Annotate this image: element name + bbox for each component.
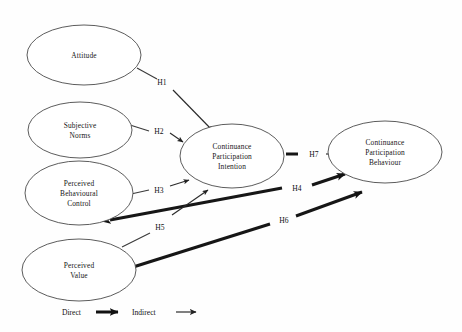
- node-label-pbc-line1: Perceived: [64, 179, 95, 188]
- node-label-pbc-line2: Behavioural: [60, 189, 98, 198]
- hypothesis-label-h7: H7: [309, 150, 318, 159]
- node-label-subjective-norms-line1: Subjective: [64, 121, 97, 130]
- node-label-cpi-line1: Continuance: [212, 142, 252, 151]
- hypothesis-label-h3: H3: [154, 186, 163, 195]
- ellipse-subjective-norms[interactable]: [28, 102, 132, 158]
- legend-indirect-label: Indirect: [132, 308, 157, 317]
- node-perceived-value[interactable]: Perceived Value: [22, 239, 136, 301]
- hypothesis-label-h2: H2: [154, 127, 163, 136]
- hypothesis-label-h6: H6: [279, 216, 288, 225]
- edge-h1: [137, 68, 213, 131]
- legend-direct-label: Direct: [62, 308, 82, 317]
- node-perceived-behavioural-control[interactable]: Perceived Behavioural Control: [25, 161, 133, 225]
- node-label-cpb-line1: Continuance: [365, 138, 405, 147]
- legend: Direct Indirect: [62, 308, 196, 317]
- node-label-attitude: Attitude: [71, 51, 97, 60]
- node-label-cpb-line3: Behaviour: [369, 158, 402, 167]
- node-continuance-participation-behaviour[interactable]: Continuance Participation Behaviour: [328, 121, 442, 183]
- node-continuance-participation-intention[interactable]: Continuance Participation Intention: [180, 124, 284, 188]
- node-label-cpb-line2: Participation: [365, 148, 405, 157]
- node-label-cpi-line3: Intention: [218, 162, 246, 171]
- edge-h6: [130, 192, 362, 268]
- hypothesis-label-h4: H4: [292, 184, 301, 193]
- node-label-cpi-line2: Participation: [212, 152, 252, 161]
- hypothesis-label-h1: H1: [157, 78, 166, 87]
- node-label-subjective-norms-line2: Norms: [70, 131, 91, 140]
- node-label-perceived-value-line2: Value: [70, 271, 88, 280]
- node-attitude[interactable]: Attitude: [27, 25, 141, 85]
- ellipse-perceived-value[interactable]: [22, 239, 136, 301]
- edge-h5: [122, 190, 208, 247]
- research-model-diagram: Attitude Subjective Norms Perceived Beha…: [0, 0, 462, 332]
- hypothesis-label-h5: H5: [155, 223, 164, 232]
- node-subjective-norms[interactable]: Subjective Norms: [28, 102, 132, 158]
- model-canvas: Attitude Subjective Norms Perceived Beha…: [0, 0, 462, 332]
- node-label-perceived-value-line1: Perceived: [64, 261, 95, 270]
- node-label-pbc-line3: Control: [67, 199, 91, 208]
